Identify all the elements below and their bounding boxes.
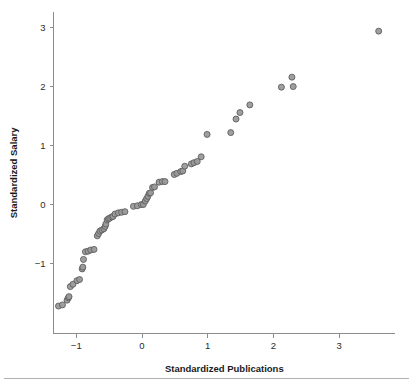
chart-background: [0, 0, 413, 387]
data-point: [198, 154, 204, 160]
data-point: [91, 246, 97, 252]
data-point: [66, 294, 72, 300]
data-point: [182, 163, 188, 169]
y-tick-label: 2: [40, 81, 45, 92]
x-tick-label: 2: [271, 340, 276, 351]
data-point: [233, 116, 239, 122]
data-point: [162, 179, 168, 185]
y-tick-label: 1: [40, 140, 45, 151]
y-tick-label: 0: [40, 199, 45, 210]
scatter-plot-figure: −10123 −10123 Standardized Publications …: [0, 0, 413, 387]
data-point: [80, 264, 86, 270]
data-point: [151, 184, 157, 190]
data-point: [59, 302, 65, 308]
data-point: [228, 130, 234, 136]
data-point: [289, 74, 295, 80]
chart-canvas: −10123 −10123 Standardized Publications …: [0, 0, 413, 387]
data-point: [290, 84, 296, 90]
x-tick-label: 1: [205, 340, 210, 351]
data-point: [122, 209, 128, 215]
x-tick-label: 0: [139, 340, 144, 351]
data-point: [80, 256, 86, 262]
x-tick-label: −1: [71, 340, 82, 351]
data-point: [247, 102, 253, 108]
x-axis-title: Standardized Publications: [165, 363, 284, 374]
data-point: [278, 84, 284, 90]
data-point: [77, 277, 83, 283]
data-point: [204, 131, 210, 137]
data-point: [237, 110, 243, 116]
y-axis-title: Standardized Salary: [8, 127, 19, 219]
y-tick-label: −1: [35, 258, 46, 269]
y-tick-label: 3: [40, 22, 45, 33]
data-point: [376, 28, 382, 34]
x-tick-label: 3: [337, 340, 342, 351]
